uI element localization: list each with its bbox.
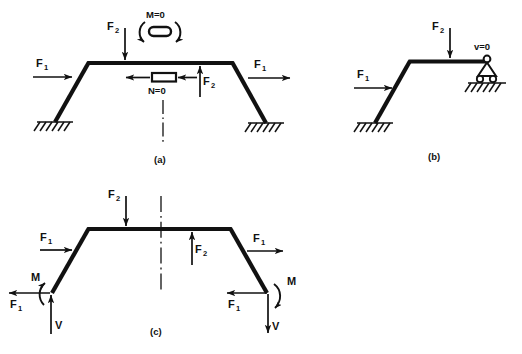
panel-c-caption: (c)	[150, 326, 162, 337]
force-c-f1-right-label: F	[253, 232, 260, 244]
reaction-c-right-f1-label: F	[228, 298, 235, 310]
force-c-f1-left-label: F	[40, 231, 47, 243]
force-a-f2-top-subscript: 2	[115, 26, 119, 35]
force-c-f2-top-label: F	[108, 188, 115, 200]
roller-wheel-left	[477, 76, 483, 82]
force-a-f2-top-label: F	[107, 20, 114, 32]
panel-b-caption: (b)	[428, 151, 440, 162]
reaction-c-right-f1-subscript: 1	[236, 304, 240, 313]
figure-container: F 1 F 1 F 2 F 2 M=0	[0, 0, 522, 354]
force-b-f2-subscript: 2	[440, 26, 444, 35]
force-a-f1-right-subscript: 1	[262, 64, 266, 73]
support-b-condition-label: v=0	[474, 41, 490, 52]
normal-release-label: N=0	[148, 85, 166, 96]
moment-release-label: M=0	[146, 9, 165, 20]
force-b-f2-label: F	[432, 20, 439, 32]
force-c-f1-left-subscript: 1	[48, 237, 52, 246]
reaction-c-left-f1-label: F	[10, 298, 17, 310]
force-c-f2-inner-label: F	[195, 243, 202, 255]
panel-a-caption: (a)	[154, 154, 166, 165]
force-a-f1-right-label: F	[254, 58, 261, 70]
reaction-c-left-f1-subscript: 1	[18, 304, 22, 313]
force-a-f2-inner-subscript: 2	[211, 81, 215, 90]
force-c-f2-top-subscript: 2	[116, 194, 120, 203]
engineering-diagram: F 1 F 1 F 2 F 2 M=0	[0, 0, 522, 354]
reaction-c-right-v-label: V	[272, 320, 280, 332]
reaction-c-right-moment-label: M	[287, 275, 296, 287]
force-b-f1-subscript: 1	[365, 74, 369, 83]
canvas-background	[0, 0, 522, 354]
force-a-f1-left-label: F	[36, 57, 43, 69]
force-b-f1-label: F	[357, 68, 364, 80]
roller-wheel-right	[490, 76, 496, 82]
force-c-f2-inner-subscript: 2	[203, 249, 207, 258]
force-a-f2-inner-label: F	[203, 75, 210, 87]
force-c-f1-right-subscript: 1	[261, 238, 265, 247]
reaction-c-left-v-label: V	[55, 319, 63, 331]
reaction-c-left-moment-label: M	[31, 271, 40, 283]
force-a-f1-left-subscript: 1	[44, 63, 48, 72]
